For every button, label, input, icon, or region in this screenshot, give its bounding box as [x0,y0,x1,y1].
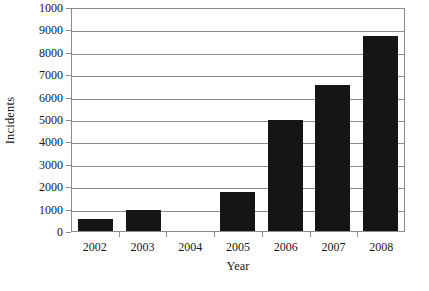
y-axis-tick-label: 1000 [39,204,63,216]
bar [363,36,398,231]
x-axis-tick-mark [166,232,167,237]
bar-slot [357,9,404,231]
plot-area [71,8,405,232]
x-axis-tick-mark [357,232,358,237]
x-axis-tick-label: 2008 [357,238,405,256]
x-axis-title: Year [71,259,405,274]
bar [315,85,350,231]
x-axis-tick-mark [214,232,215,237]
x-axis-tick-mark [310,232,311,237]
y-axis-tick-label: 9000 [39,24,63,36]
bar-slot [309,9,356,231]
bar [268,120,303,231]
x-axis-tick-labels: 2002200320042005200620072008 [71,238,405,256]
bar [220,192,255,231]
x-axis-title-text: Year [226,259,249,273]
x-axis-tick-label: 2004 [166,238,214,256]
x-axis-tick-label: 2003 [119,238,167,256]
x-axis-tick-label: 2007 [310,238,358,256]
bar-chart: Incidents 010002000300040005000600070008… [0,0,429,291]
bar-slot [262,9,309,231]
y-axis-tick-labels: 0100020003000400050006000700080009000100… [22,8,67,232]
x-axis-tick-label: 2006 [262,238,310,256]
x-axis-tick-mark [119,232,120,237]
bar-slot [119,9,166,231]
y-axis-tick-label: 6000 [39,92,63,104]
bar-slot [214,9,261,231]
x-axis-tick-label: 2002 [71,238,119,256]
y-axis-tick-label: 8000 [39,47,63,59]
y-axis-title: Incidents [0,0,22,240]
y-axis-tick-label: 5000 [39,114,63,126]
bar [78,219,113,231]
y-axis-tick-label: 7000 [39,69,63,81]
y-axis-tick-label: 3000 [39,159,63,171]
y-axis-tick-label: 0 [57,226,63,238]
x-axis-tick-mark [262,232,263,237]
y-axis-title-text: Incidents [4,96,19,144]
x-axis-tick-label: 2005 [214,238,262,256]
bar-slot [167,9,214,231]
y-axis-tick-label: 1000 [39,2,63,14]
bar-slot [72,9,119,231]
x-axis-tick-marks [71,232,405,237]
y-axis-tick-label: 4000 [39,136,63,148]
bar-series [72,9,404,231]
y-axis-tick-label: 2000 [39,181,63,193]
bar [126,210,161,231]
